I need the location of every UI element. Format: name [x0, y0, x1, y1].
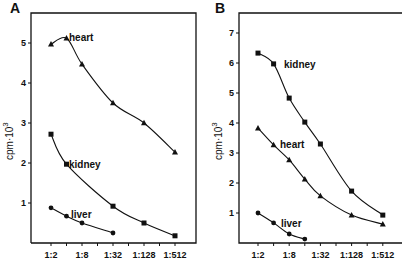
x-tick-label: 1:32	[311, 250, 329, 260]
panel-b-label-heart: heart	[280, 139, 305, 150]
series-line	[51, 134, 175, 236]
square-marker	[271, 61, 276, 66]
y-tick-label: 7	[229, 28, 234, 38]
circle-marker	[302, 237, 307, 242]
circle-marker	[287, 232, 292, 237]
x-tick-label: 1:8	[75, 250, 88, 260]
series-heart	[255, 125, 386, 226]
series-line	[258, 53, 383, 215]
y-tick-label: 5	[21, 38, 26, 48]
square-marker	[111, 204, 116, 209]
circle-marker	[80, 221, 85, 226]
panel-b-y-axis-title: cpm·103	[210, 122, 224, 160]
panel-b: B 1234567 1:21:81:321:1281:512 cpm·103 k…	[210, 0, 402, 260]
y-tick-label: 3	[21, 118, 26, 128]
y-tick-label: 2	[21, 158, 26, 168]
series-kidney	[256, 51, 386, 218]
panel-a-label-kidney: kidney	[69, 159, 101, 170]
x-tick-label: 1:128	[340, 250, 363, 260]
x-tick-label: 1:32	[104, 250, 122, 260]
panel-a: A 12345 1:21:81:321:1281:512 cpm·103 hea…	[1, 0, 196, 260]
triangle-marker	[255, 125, 261, 130]
panel-b-y-axis: 1234567	[229, 28, 239, 218]
panel-a-y-axis: 12345	[21, 38, 31, 208]
panel-b-series	[255, 51, 386, 242]
x-tick-label: 1:2	[251, 250, 264, 260]
square-marker	[318, 142, 323, 147]
series-line	[51, 37, 175, 152]
x-tick-label: 1:128	[132, 250, 155, 260]
circle-marker	[256, 211, 261, 216]
square-marker	[302, 120, 307, 125]
series-kidney	[49, 132, 178, 239]
figure: A 12345 1:21:81:321:1281:512 cpm·103 hea…	[0, 0, 403, 262]
x-tick-label: 1:512	[371, 250, 394, 260]
square-marker	[349, 189, 354, 194]
panel-a-letter: A	[10, 0, 20, 16]
panel-b-letter: B	[215, 0, 225, 16]
circle-marker	[271, 221, 276, 226]
y-tick-label: 2	[229, 178, 234, 188]
y-tick-label: 5	[229, 88, 234, 98]
y-tick-label: 6	[229, 58, 234, 68]
panel-a-label-heart: heart	[69, 32, 94, 43]
panel-a-y-axis-title: cpm·103	[1, 122, 15, 160]
series-heart	[48, 35, 178, 155]
square-marker	[49, 132, 54, 137]
y-tick-label: 1	[21, 198, 26, 208]
x-tick-label: 1:512	[163, 250, 186, 260]
panel-b-label-kidney: kidney	[284, 59, 316, 70]
panel-b-x-axis: 1:21:81:321:1281:512	[251, 243, 394, 260]
y-tick-label: 3	[229, 148, 234, 158]
panel-a-x-axis: 1:21:81:321:1281:512	[44, 243, 186, 260]
circle-marker	[49, 205, 54, 210]
square-marker	[287, 96, 292, 101]
circle-marker	[111, 231, 116, 236]
triangle-marker	[141, 120, 147, 126]
triangle-marker	[48, 41, 54, 47]
panel-b-label-liver: liver	[281, 218, 302, 229]
circle-marker	[64, 214, 69, 219]
square-marker	[380, 213, 385, 218]
y-tick-label: 4	[21, 78, 26, 88]
square-marker	[173, 233, 178, 238]
x-tick-label: 1:2	[44, 250, 57, 260]
square-marker	[142, 221, 147, 226]
panel-a-series	[48, 35, 178, 238]
y-tick-label: 4	[229, 118, 234, 128]
panel-a-label-liver: liver	[71, 209, 92, 220]
square-marker	[256, 51, 261, 56]
y-tick-label: 1	[229, 208, 234, 218]
panel-b-frame	[239, 13, 402, 243]
x-tick-label: 1:8	[283, 250, 296, 260]
